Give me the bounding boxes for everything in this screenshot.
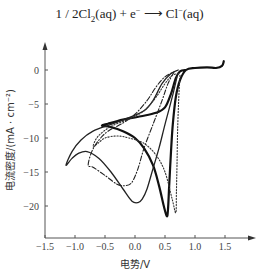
- x-tick-label: −1.5: [36, 241, 54, 252]
- y-tick-label: 0: [34, 65, 39, 76]
- x-tick-label: 1.0: [189, 241, 202, 252]
- x-tick-label: 0.5: [159, 241, 172, 252]
- y-tick-label: −5: [28, 99, 39, 110]
- x-axis-arrow: [248, 236, 256, 241]
- cv-chart: −1.5−1.0−0.50.00.51.01.50−5−10−15−20 电势/…: [0, 0, 259, 277]
- y-axis-title: 电流密度/(mA · cm⁻²): [4, 89, 16, 191]
- y-tick-label: −20: [23, 201, 39, 212]
- x-tick-label: −0.5: [96, 241, 114, 252]
- y-tick-label: −10: [23, 133, 39, 144]
- curves: [66, 61, 224, 216]
- y-tick-label: −15: [23, 167, 39, 178]
- y-axis-arrow: [43, 42, 48, 50]
- x-tick-label: 1.5: [219, 241, 232, 252]
- x-axis-title: 电势/V: [120, 258, 150, 270]
- series-thick-solid-line: [102, 61, 224, 216]
- series-dotted-line: [93, 73, 180, 213]
- x-tick-label: 0.0: [129, 241, 142, 252]
- x-tick-label: −1.0: [66, 241, 84, 252]
- axes: −1.5−1.0−0.50.00.51.01.50−5−10−15−20: [23, 42, 256, 252]
